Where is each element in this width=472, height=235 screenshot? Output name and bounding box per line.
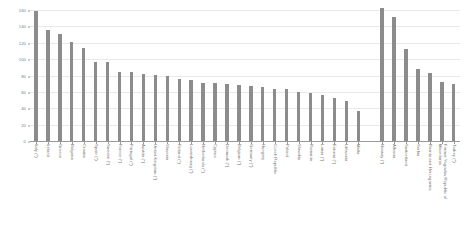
x-axis-label-slot: Romania xyxy=(305,144,317,232)
bar-slot xyxy=(293,10,305,141)
bar-slot xyxy=(448,10,460,141)
bar xyxy=(201,83,204,141)
y-axis-tick-label: 40 xyxy=(21,107,26,111)
bar xyxy=(416,69,419,141)
bar-slot xyxy=(221,10,233,141)
bar xyxy=(46,30,49,141)
x-axis-label-slot: Croatia xyxy=(78,144,90,232)
bar xyxy=(273,89,276,141)
x-axis-tick-label: Luxembourg (*) xyxy=(189,144,194,174)
bar-slot xyxy=(233,10,245,141)
x-axis-tick-label: Serbia xyxy=(416,144,421,156)
x-axis-tick-label: Hungary xyxy=(260,144,265,160)
bar-slot xyxy=(66,10,78,141)
y-axis-tick-label: 140 xyxy=(19,25,26,29)
bar xyxy=(58,34,61,141)
x-axis-tick-label: Spain (*) xyxy=(93,144,98,161)
bar xyxy=(392,17,395,141)
x-axis-tick-label: Germany (*) xyxy=(248,144,253,167)
bar xyxy=(345,101,348,141)
x-axis-label-slot: Germany (*) xyxy=(245,144,257,232)
bar-slot xyxy=(317,10,329,141)
x-axis-tick-label: Turkey (*) xyxy=(451,144,456,163)
x-axis-tick-label: Slovenia xyxy=(165,144,170,160)
x-axis-label-slot: Lithuania xyxy=(340,144,352,232)
x-axis-label-slot: Portugal (*) xyxy=(126,144,138,232)
bar-slot xyxy=(400,10,412,141)
x-axis-tick-label: Albania xyxy=(392,144,397,158)
x-axis-tick-label: Lithuania xyxy=(344,144,349,161)
bar-chart: 020406080100120140160 Italy (*)IrelandGr… xyxy=(0,0,472,235)
x-axis-label-slot: Netherlands (*) xyxy=(197,144,209,232)
bar-slot xyxy=(30,10,42,141)
x-axis-tick-label: Portugal (*) xyxy=(129,144,134,166)
x-axis-label-slot xyxy=(364,144,376,232)
x-axis-tick-label: Sweden (*) xyxy=(105,144,110,165)
x-axis-tick-label: Croatia xyxy=(81,144,86,158)
bar xyxy=(106,62,109,141)
x-axis-label-slot: Hungary xyxy=(257,144,269,232)
bar xyxy=(82,48,85,141)
bar xyxy=(178,79,181,141)
x-axis-label-slot: Switzerland xyxy=(400,144,412,232)
bar xyxy=(249,86,252,141)
x-axis-label-slot: Albania xyxy=(388,144,400,232)
bar-slot xyxy=(102,10,114,141)
x-axis-label-slot: Czech Republic xyxy=(269,144,281,232)
bar-slot xyxy=(149,10,161,141)
bar xyxy=(142,74,145,141)
bar-slot xyxy=(42,10,54,141)
x-axis-label-slot: Greece xyxy=(54,144,66,232)
x-axis-label-slot: Finland (*) xyxy=(173,144,185,232)
x-axis-tick-label: Belgium (*) xyxy=(236,144,241,165)
bar xyxy=(166,76,169,142)
bar-slot xyxy=(305,10,317,141)
x-axis-tick-label: Poland xyxy=(284,144,289,157)
y-axis-tick-label: 0 xyxy=(24,140,26,144)
x-axis-label-slot: Luxembourg (*) xyxy=(185,144,197,232)
x-axis-tick-label: Norway (*) xyxy=(380,144,385,164)
x-axis-label-slot: Ireland xyxy=(42,144,54,232)
bar xyxy=(237,85,240,141)
bar-slot xyxy=(257,10,269,141)
x-axis-tick-label: Romania xyxy=(308,144,313,161)
x-axis-label-slot: Cyprus xyxy=(209,144,221,232)
y-axis-tick-label: 120 xyxy=(19,42,26,46)
bar-slot xyxy=(126,10,138,141)
bar xyxy=(130,72,133,141)
bar xyxy=(321,95,324,141)
bar-slot xyxy=(352,10,364,141)
x-axis-label-slot: Spain (*) xyxy=(90,144,102,232)
x-axis-label-slot: Norway (*) xyxy=(376,144,388,232)
plot-area xyxy=(30,10,460,142)
bar-slot xyxy=(376,10,388,141)
x-axis-label-slot: Sweden (*) xyxy=(102,144,114,232)
x-axis-tick-label: Bosnia and Herzegovina xyxy=(427,144,432,191)
bar xyxy=(213,83,216,141)
bar xyxy=(428,73,431,141)
x-axis-label-slot: Italy (*) xyxy=(30,144,42,232)
bar xyxy=(404,49,407,141)
x-axis-tick-label: Italy (*) xyxy=(34,144,39,158)
x-axis-tick-label: Austria (*) xyxy=(141,144,146,163)
x-axis-tick-label: Switzerland xyxy=(404,144,409,166)
x-axis-label-slot: France (*) xyxy=(114,144,126,232)
x-axis-tick-label: Bulgaria xyxy=(69,144,74,160)
x-axis-tick-label: Estonia (*) xyxy=(332,144,337,164)
bar-slot xyxy=(78,10,90,141)
bar xyxy=(261,87,264,141)
bar-slot xyxy=(90,10,102,141)
bar-slot xyxy=(197,10,209,141)
x-axis-tick-label: France (*) xyxy=(117,144,122,163)
bar-slot xyxy=(209,10,221,141)
bar xyxy=(309,93,312,141)
bar-series xyxy=(30,10,460,141)
bar-slot xyxy=(245,10,257,141)
bar-slot xyxy=(412,10,424,141)
bar-slot xyxy=(185,10,197,141)
bar-slot xyxy=(436,10,448,141)
bar-slot xyxy=(161,10,173,141)
bar xyxy=(154,75,157,141)
x-axis-line xyxy=(30,141,460,142)
bar-slot xyxy=(328,10,340,141)
